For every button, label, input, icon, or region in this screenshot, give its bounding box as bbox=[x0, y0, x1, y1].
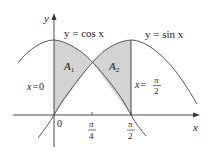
region-a1-shade bbox=[54, 40, 92, 115]
origin-label: 0 bbox=[57, 118, 62, 129]
x-axis-label: x bbox=[192, 121, 198, 133]
sin-curve-label: y = sin x bbox=[145, 28, 184, 40]
tick-label-pi-over-2-den: 2 bbox=[128, 131, 133, 141]
x-axis-arrow-icon bbox=[193, 113, 200, 118]
cos-curve-label: y = cos x bbox=[64, 27, 105, 39]
area-diagram: y x 0 π 4 π 2 y = cos x y = sin x A1 A2 … bbox=[0, 0, 208, 151]
tick-label-pi-over-4-num: π bbox=[89, 119, 94, 129]
tick-label-pi-over-2-num: π bbox=[128, 119, 133, 129]
right-boundary-label-lhs: x= bbox=[134, 79, 146, 90]
right-boundary-label-num: π bbox=[154, 75, 159, 85]
y-axis-arrow-icon bbox=[52, 13, 57, 20]
y-axis-label: y bbox=[43, 12, 49, 24]
right-boundary-label-den: 2 bbox=[154, 86, 159, 96]
tick-label-pi-over-4-den: 4 bbox=[89, 131, 94, 141]
left-boundary-label: x=0 bbox=[26, 81, 44, 92]
